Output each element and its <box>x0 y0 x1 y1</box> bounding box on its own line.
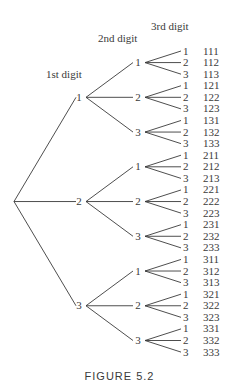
outcome-code: 213 <box>203 172 220 184</box>
level2-node-label: 1 <box>135 160 141 172</box>
level3-leaf-label: 3 <box>183 346 189 358</box>
outcome-code: 313 <box>203 276 220 288</box>
level3-leaf-label: 3 <box>183 311 189 323</box>
outcome-code: 211 <box>203 149 219 161</box>
level2-node-label: 2 <box>135 91 141 103</box>
level1-node-label: 3 <box>76 299 82 311</box>
outcome-code: 122 <box>203 91 220 103</box>
figure-caption: FIGURE 5.2 <box>0 370 239 382</box>
branch-level3 <box>145 236 181 248</box>
branch-level3 <box>145 51 181 63</box>
branch-level3 <box>145 120 181 132</box>
level3-leaf-label: 2 <box>183 265 189 277</box>
branch-level3 <box>145 329 181 341</box>
branch-level2 <box>86 202 133 237</box>
outcome-code: 331 <box>203 322 220 334</box>
header-1st-digit: 1st digit <box>46 68 82 80</box>
level3-leaf-label: 1 <box>183 45 189 57</box>
branch-level3 <box>145 294 181 306</box>
outcome-code: 112 <box>203 56 219 68</box>
branch-level2 <box>86 97 133 132</box>
outcome-code: 322 <box>203 299 220 311</box>
level3-leaf-label: 1 <box>183 149 189 161</box>
branch-level1 <box>14 97 76 201</box>
outcome-code: 132 <box>203 126 220 138</box>
level3-leaf-label: 3 <box>183 137 189 149</box>
level2-node-label: 3 <box>135 334 141 346</box>
branch-level3 <box>145 271 181 283</box>
outcome-code: 113 <box>203 68 220 80</box>
branch-level3 <box>145 167 181 179</box>
branch-level3 <box>145 341 181 353</box>
header-3rd-digit: 3rd digit <box>151 20 189 32</box>
level2-node-label: 3 <box>135 230 141 242</box>
branch-level1 <box>14 202 76 306</box>
outcome-code: 332 <box>203 334 220 346</box>
branch-level3 <box>145 306 181 318</box>
branch-level3 <box>145 63 181 75</box>
outcome-code: 231 <box>203 218 220 230</box>
level3-leaf-label: 1 <box>183 183 189 195</box>
outcome-code: 123 <box>203 102 220 114</box>
level3-leaf-label: 1 <box>183 288 189 300</box>
level3-leaf-label: 2 <box>183 126 189 138</box>
branch-level3 <box>145 202 181 214</box>
outcome-code: 121 <box>203 79 220 91</box>
level1-node-label: 2 <box>76 195 82 207</box>
tree-labels: 1111112112311321121212231233113121323133… <box>76 45 220 358</box>
outcome-code: 311 <box>203 253 219 265</box>
outcome-code: 221 <box>203 183 220 195</box>
outcome-code: 111 <box>203 45 219 57</box>
branch-level3 <box>145 225 181 237</box>
level3-leaf-label: 3 <box>183 207 189 219</box>
level3-leaf-label: 2 <box>183 299 189 311</box>
outcome-code: 223 <box>203 207 220 219</box>
branch-level3 <box>145 190 181 202</box>
level3-leaf-label: 2 <box>183 230 189 242</box>
branch-level2 <box>86 167 133 202</box>
outcome-code: 232 <box>203 230 220 242</box>
level3-leaf-label: 2 <box>183 56 189 68</box>
level3-leaf-label: 2 <box>183 334 189 346</box>
outcome-code: 233 <box>203 241 220 253</box>
branch-level2 <box>86 271 133 306</box>
level1-node-label: 1 <box>76 91 82 103</box>
branch-level3 <box>145 132 181 144</box>
outcome-code: 312 <box>203 265 220 277</box>
branch-level3 <box>145 259 181 271</box>
level2-node-label: 1 <box>135 265 141 277</box>
branch-level2 <box>86 63 133 98</box>
level2-node-label: 2 <box>135 195 141 207</box>
level3-leaf-label: 1 <box>183 218 189 230</box>
branch-level3 <box>145 155 181 167</box>
level3-leaf-label: 3 <box>183 241 189 253</box>
outcome-code: 212 <box>203 160 220 172</box>
outcome-code: 323 <box>203 311 220 323</box>
level3-leaf-label: 3 <box>183 68 189 80</box>
level3-leaf-label: 3 <box>183 276 189 288</box>
outcome-code: 131 <box>203 114 220 126</box>
outcome-code: 333 <box>203 346 220 358</box>
level3-leaf-label: 2 <box>183 91 189 103</box>
level3-leaf-label: 2 <box>183 195 189 207</box>
branch-level3 <box>145 86 181 98</box>
outcome-code: 321 <box>203 288 220 300</box>
header-2nd-digit: 2nd digit <box>98 32 137 44</box>
outcome-code: 222 <box>203 195 220 207</box>
level3-leaf-label: 2 <box>183 160 189 172</box>
level2-node-label: 1 <box>135 56 141 68</box>
branch-level3 <box>145 97 181 109</box>
level3-leaf-label: 1 <box>183 322 189 334</box>
outcome-code: 133 <box>203 137 220 149</box>
level3-leaf-label: 3 <box>183 102 189 114</box>
level3-leaf-label: 1 <box>183 253 189 265</box>
level3-leaf-label: 3 <box>183 172 189 184</box>
tree-branches <box>14 51 181 352</box>
level3-leaf-label: 1 <box>183 114 189 126</box>
level2-node-label: 3 <box>135 126 141 138</box>
level3-leaf-label: 1 <box>183 79 189 91</box>
level2-node-label: 2 <box>135 299 141 311</box>
branch-level2 <box>86 306 133 341</box>
